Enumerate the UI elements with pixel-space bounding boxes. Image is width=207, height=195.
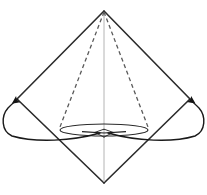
diagram-canvas <box>0 0 207 195</box>
outline-upper-right-edge <box>104 11 190 99</box>
center-arrowhead-from-left <box>82 132 104 133</box>
dashed-right-slant <box>104 12 148 127</box>
center-arrowhead-from-right <box>104 132 126 133</box>
outline-lower-right-edge <box>104 99 190 183</box>
outline-lower-left-edge <box>17 99 104 183</box>
left-sweep-arrow <box>3 100 100 141</box>
right-sweep-arrow <box>108 100 204 141</box>
outline-upper-left-edge <box>17 11 104 99</box>
cone-diagram-svg <box>0 0 207 195</box>
dashed-left-slant <box>60 12 104 127</box>
